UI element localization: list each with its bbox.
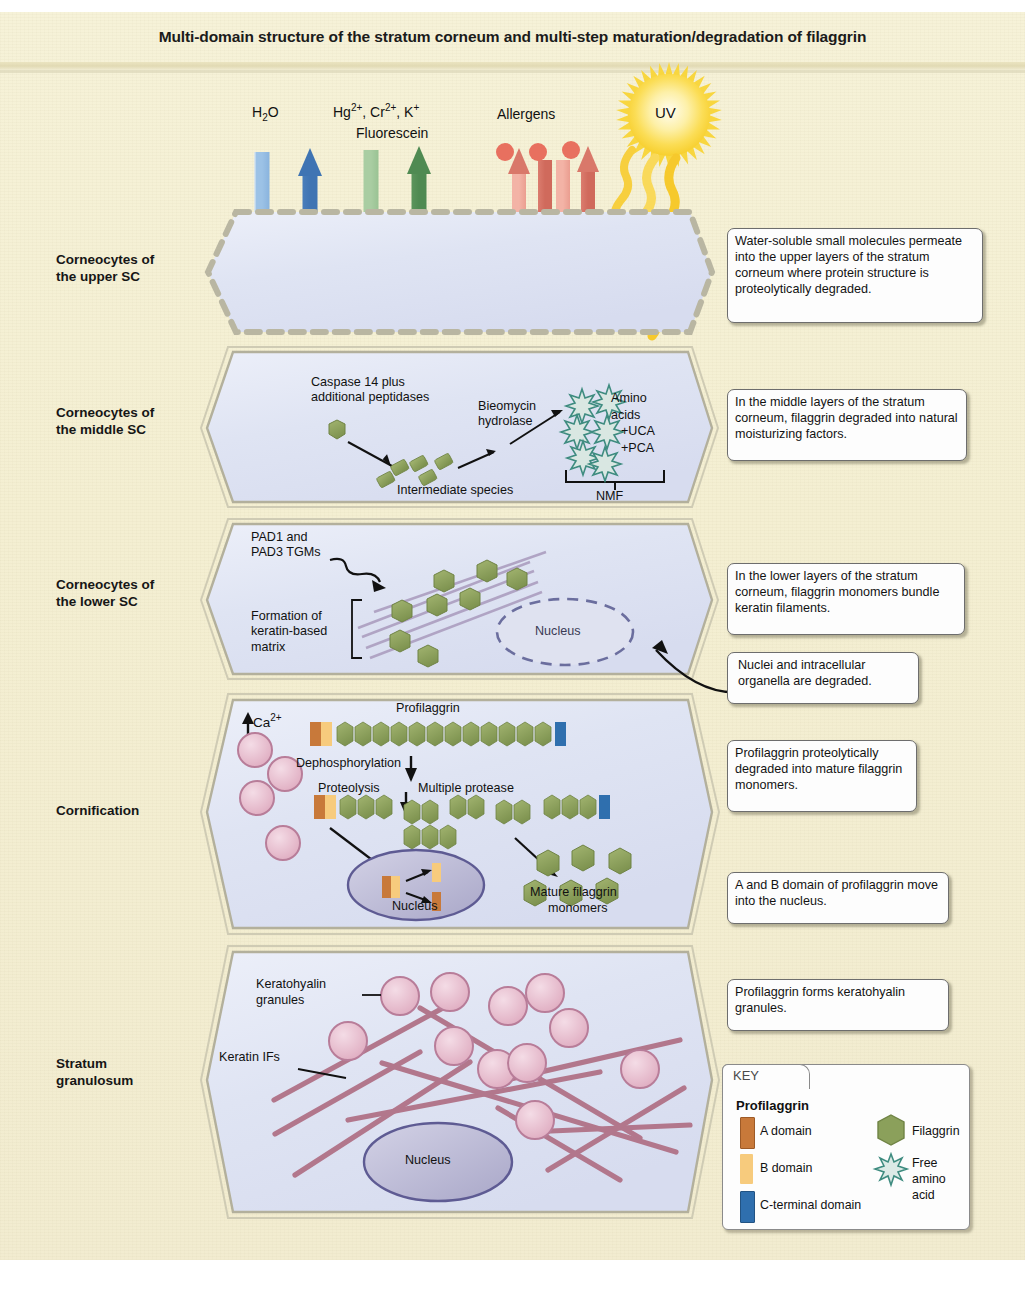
row-label-stratum-granulosum: Stratum granulosum <box>56 1056 133 1090</box>
key-label-a-domain: A domain <box>760 1124 812 1138</box>
nmf-label: NMF <box>596 489 623 504</box>
callout-lower-sc: In the lower layers of the stratum corne… <box>727 563 965 635</box>
callout-keratohyalin: Profilaggrin forms keratohyalin granules… <box>727 979 949 1031</box>
uv-label: UV <box>655 104 676 122</box>
mature-monomers-label: Mature filaggrin monomers <box>530 884 617 917</box>
row-label-middle-sc: Corneocytes of the middle SC <box>56 405 154 439</box>
key-label-c-terminal: C-terminal domain <box>760 1198 861 1212</box>
callout-middle-sc: In the middle layers of the stratum corn… <box>727 389 967 461</box>
dephosphorylation-label: Dephosphorylation <box>296 756 401 771</box>
key-title: Profilaggrin <box>736 1098 809 1113</box>
key-label-b-domain: B domain <box>760 1161 812 1175</box>
multiple-protease-label: Multiple protease <box>418 781 514 796</box>
key-swatch-c-terminal <box>740 1191 755 1223</box>
cornification-nucleus-label: Nucleus <box>392 899 438 914</box>
row-label-lower-sc: Corneocytes of the lower SC <box>56 577 154 611</box>
title-rule-shadow <box>0 70 1025 73</box>
profilaggrin-label: Profilaggrin <box>396 701 460 716</box>
row-label-cornification: Cornification <box>56 803 139 820</box>
water-label: H2O <box>252 104 279 124</box>
fluorescein-label: Fluorescein <box>356 125 428 142</box>
callout-nuclei: Nuclei and intracellular organella are d… <box>727 652 919 704</box>
figure-title: Multi-domain structure of the stratum co… <box>0 28 1025 46</box>
keratin-matrix-label: Formation of keratin-based matrix <box>251 609 327 655</box>
proteolysis-label: Proteolysis <box>318 781 380 796</box>
figure-page: Multi-domain structure of the stratum co… <box>0 0 1025 1292</box>
caspase-label: Caspase 14 plus additional peptidases <box>311 375 429 406</box>
calcium-label: Ca2+ <box>253 712 282 731</box>
key-label-free-amino-acid: Free amino acid <box>912 1156 946 1204</box>
metal-ions-label: Hg2+, Cr2+, K+ <box>333 102 419 121</box>
key-label-filaggrin: Filaggrin <box>912 1124 960 1138</box>
granulosum-nucleus-label: Nucleus <box>405 1153 451 1168</box>
key-tab-label: KEY <box>733 1068 759 1083</box>
lower-sc-nucleus-label: Nucleus <box>535 624 581 639</box>
title-rule <box>0 62 1025 70</box>
intermediate-species-label: Intermediate species <box>397 483 513 498</box>
callout-profilaggrin-degraded: Profilaggrin proteolytically degraded in… <box>727 740 917 812</box>
row-label-upper-sc: Corneocytes of the upper SC <box>56 252 154 286</box>
allergens-label: Allergens <box>497 106 555 123</box>
keratohyalin-granules-label: Keratohyalin granules <box>256 976 326 1008</box>
nmf-components-label: Amino acids +UCA +PCA <box>611 390 655 456</box>
key-swatch-b-domain <box>740 1154 753 1184</box>
bleomycin-label: Bieomycin hydrolase <box>478 399 536 430</box>
callout-upper-sc: Water-soluble small molecules permeate i… <box>727 228 983 323</box>
callout-ab-domain: A and B domain of profilaggrin move into… <box>727 872 949 924</box>
key-swatch-a-domain <box>740 1117 755 1149</box>
keratin-ifs-label: Keratin IFs <box>219 1050 280 1065</box>
pad-tgm-label: PAD1 and PAD3 TGMs <box>251 530 321 561</box>
